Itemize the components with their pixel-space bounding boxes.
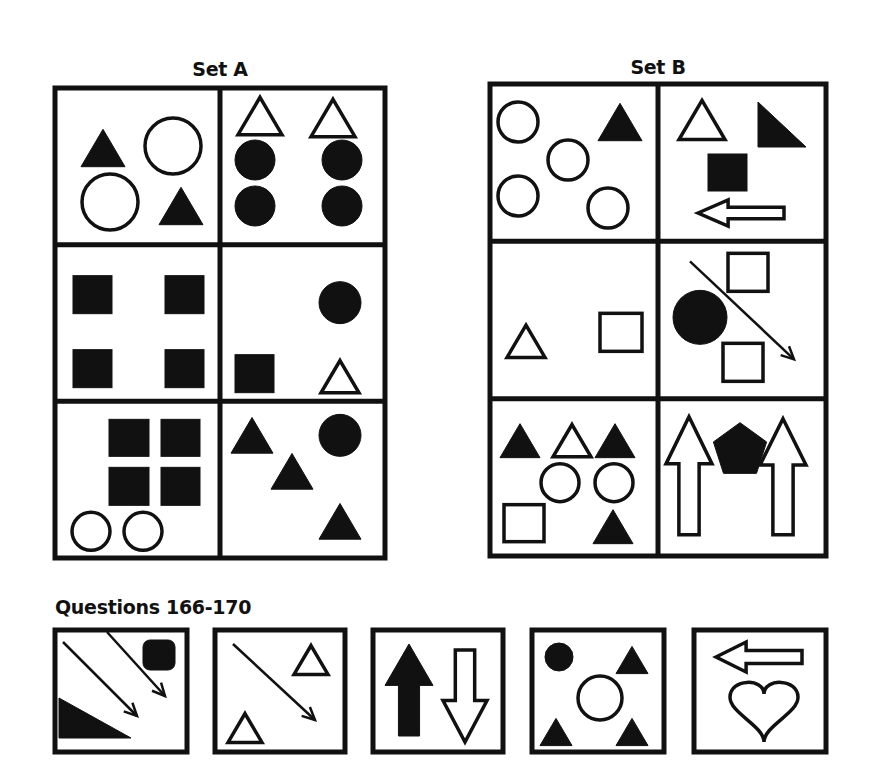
outline-triangle-shape (228, 714, 262, 743)
filled-triangle-shape (540, 718, 572, 745)
right-triangle-shape (59, 698, 131, 738)
heart-icon (730, 682, 798, 742)
down-arrow-outline-icon (443, 650, 487, 742)
filled-triangle-shape (616, 646, 648, 673)
question-panel-168 (385, 644, 487, 742)
filled-triangle-shape (616, 718, 648, 745)
rounded-square-shape (143, 640, 175, 670)
question-panels (0, 0, 878, 784)
outline-circle-shape (578, 676, 622, 720)
filled-circle-shape (545, 643, 573, 671)
up-arrow-filled-icon (385, 644, 433, 736)
question-border (373, 630, 503, 752)
outline-triangle-shape (294, 646, 328, 675)
question-panel-169 (540, 643, 648, 746)
question-panel-170 (716, 642, 802, 742)
left-arrow-outline-icon (716, 642, 802, 672)
question-panel-167 (228, 644, 328, 742)
diagonal-arrow-line (233, 644, 315, 720)
question-panel-166 (59, 632, 175, 738)
